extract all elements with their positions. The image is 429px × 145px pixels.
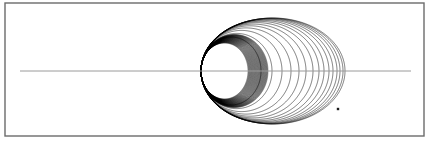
- figure-background: [0, 0, 429, 145]
- trajectory-endpoint-marker: [337, 108, 339, 110]
- orbit-figure: [0, 0, 429, 145]
- figure-canvas: [0, 0, 429, 145]
